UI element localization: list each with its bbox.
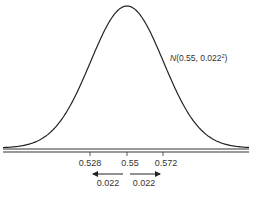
tick-label-055: 0.55 (121, 158, 139, 168)
arrow-left-label: 0.022 (97, 178, 120, 188)
curve-label-body: (0.55, 0.022 (176, 53, 222, 63)
normal-curve (3, 6, 249, 148)
tick-label-0572: 0.572 (155, 158, 178, 168)
normal-distribution-chart: 0.528 0.55 0.572 0.022 0.022 N(0.55, 0.0… (0, 0, 259, 201)
tick-label-0528: 0.528 (79, 158, 102, 168)
curve-label-suffix: ) (225, 53, 228, 63)
arrow-right-label: 0.022 (133, 178, 156, 188)
curve-label: N(0.55, 0.0222) (170, 53, 228, 64)
